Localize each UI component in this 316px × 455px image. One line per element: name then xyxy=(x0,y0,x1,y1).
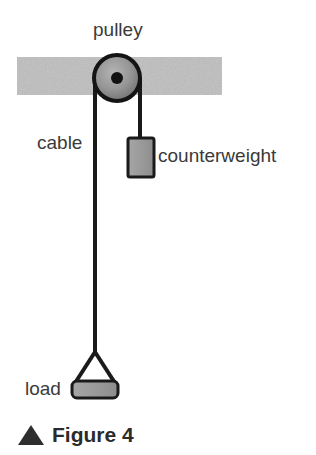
counterweight-block xyxy=(128,138,154,177)
pulley-hub-icon xyxy=(111,72,123,84)
cable-group xyxy=(95,78,140,352)
label-cable: cable xyxy=(37,133,82,153)
pulley-wheel xyxy=(94,55,140,101)
triangle-marker-icon xyxy=(18,425,44,445)
label-load: load xyxy=(25,379,61,399)
figure-caption: Figure 4 xyxy=(18,423,134,447)
figure-pulley-system: pulley cable counterweight load Figure 4 xyxy=(0,0,316,455)
load-block xyxy=(72,381,118,398)
load-sling xyxy=(75,352,115,383)
label-counterweight: counterweight xyxy=(158,146,276,166)
label-pulley: pulley xyxy=(93,20,143,40)
figure-caption-text: Figure 4 xyxy=(52,423,134,447)
